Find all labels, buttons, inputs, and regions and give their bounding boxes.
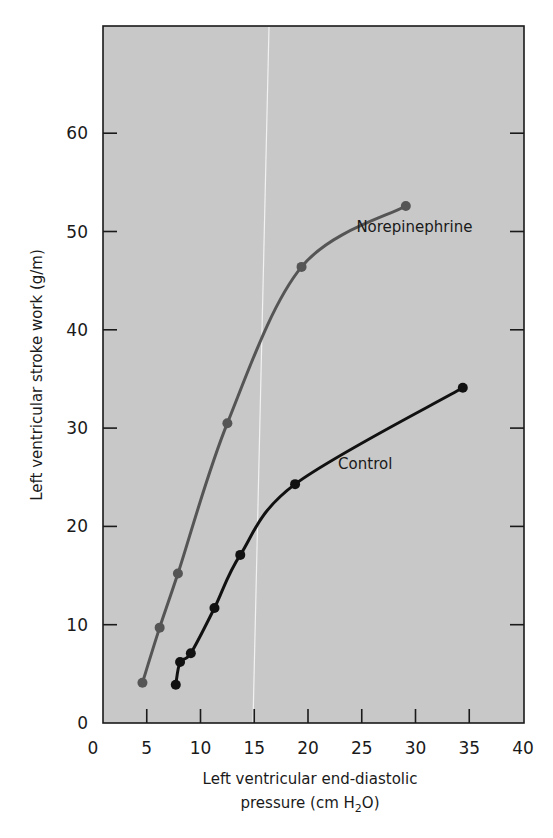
- series-label-control: Control: [338, 455, 392, 473]
- data-point: [171, 680, 181, 690]
- y-axis-title: Left ventricular stroke work (g/m): [28, 249, 46, 501]
- data-point: [173, 569, 183, 579]
- data-point: [235, 550, 245, 560]
- data-point: [209, 603, 219, 613]
- y-tick-label: 10: [66, 615, 88, 635]
- x-tick-label: 30: [405, 738, 427, 758]
- data-point: [297, 262, 307, 272]
- data-point: [155, 623, 165, 633]
- data-point: [458, 383, 468, 393]
- y-tick-label: 50: [66, 222, 88, 242]
- x-axis-title-part: O): [362, 794, 380, 812]
- y-tick-label: 30: [66, 418, 88, 438]
- x-tick-label: 40: [512, 738, 534, 758]
- data-point: [175, 657, 185, 667]
- chart: 0102030405060 0510152025303540 Norepinep…: [0, 0, 553, 838]
- x-tick-label: 5: [141, 738, 152, 758]
- x-axis-title-line2: pressure (cm H2O): [241, 794, 380, 815]
- x-axis-title-line1: Left ventricular end-diastolic: [203, 770, 418, 788]
- data-point: [137, 678, 147, 688]
- y-tick-label: 60: [66, 123, 88, 143]
- x-tick-label: 0: [88, 738, 99, 758]
- y-tick-label: 40: [66, 320, 88, 340]
- x-tick-label: 25: [351, 738, 373, 758]
- x-tick-label: 15: [243, 738, 265, 758]
- x-tick-label: 10: [190, 738, 212, 758]
- data-point: [222, 418, 232, 428]
- x-tick-label: 20: [297, 738, 319, 758]
- data-point: [290, 479, 300, 489]
- data-point: [186, 648, 196, 658]
- x-tick-label: 35: [458, 738, 480, 758]
- x-axis-title-subscript: 2: [355, 802, 362, 815]
- x-axis-title-part: pressure (cm H: [241, 794, 355, 812]
- data-point: [401, 201, 411, 211]
- series-label-norepinephrine: Norepinephrine: [356, 218, 472, 236]
- plot-area: [103, 26, 524, 723]
- y-tick-label: 20: [66, 516, 88, 536]
- y-tick-label: 0: [77, 713, 88, 733]
